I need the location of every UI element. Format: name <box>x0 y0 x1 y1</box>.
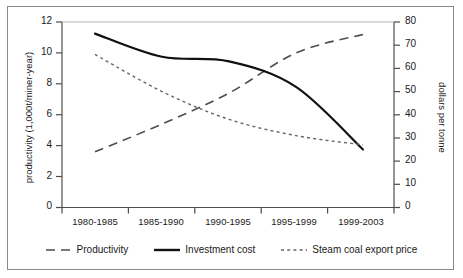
chart-legend: Productivity Investment cost Steam coal … <box>24 240 439 260</box>
legend-label-investment-cost: Investment cost <box>185 245 255 255</box>
right-tick-label: 30 <box>405 131 439 142</box>
left-axis-title: productivity (1,000t/miner-year) <box>23 28 34 208</box>
right-tick-label: 80 <box>405 15 439 26</box>
x-axis-ticks <box>62 208 394 214</box>
left-tick-label: 12 <box>18 15 52 26</box>
series-line-productivity <box>95 34 363 151</box>
right-axis-title: dollars per tonne <box>437 28 448 208</box>
right-tick-label: 10 <box>405 177 439 188</box>
right-axis-ticks <box>394 22 400 208</box>
legend-item-steam-coal-export-price: Steam coal export price <box>281 245 417 255</box>
legend-label-productivity: Productivity <box>77 245 129 255</box>
series-line-investment-cost <box>95 34 363 150</box>
x-tick-label-1999-2003: 1999-2003 <box>321 216 401 227</box>
series-line-steam-coal-export-price <box>95 54 363 144</box>
chart-figure: 12 10 8 6 4 2 0 80 70 60 50 40 30 20 10 … <box>0 0 463 278</box>
right-tick-label: 40 <box>405 108 439 119</box>
legend-dot-swatch-steam-coal-export-price <box>281 246 307 254</box>
legend-item-productivity: Productivity <box>46 245 129 255</box>
legend-solid-swatch-investment-cost <box>154 246 180 254</box>
right-tick-label: 0 <box>405 200 439 211</box>
right-tick-label: 50 <box>405 84 439 95</box>
legend-dash-swatch-productivity <box>46 246 72 254</box>
chart-plot-area <box>0 0 463 278</box>
legend-label-steam-coal-export-price: Steam coal export price <box>312 245 417 255</box>
legend-item-investment-cost: Investment cost <box>154 245 255 255</box>
right-tick-label: 60 <box>405 61 439 72</box>
right-tick-label: 20 <box>405 154 439 165</box>
left-axis-ticks <box>56 22 62 208</box>
right-tick-label: 70 <box>405 38 439 49</box>
